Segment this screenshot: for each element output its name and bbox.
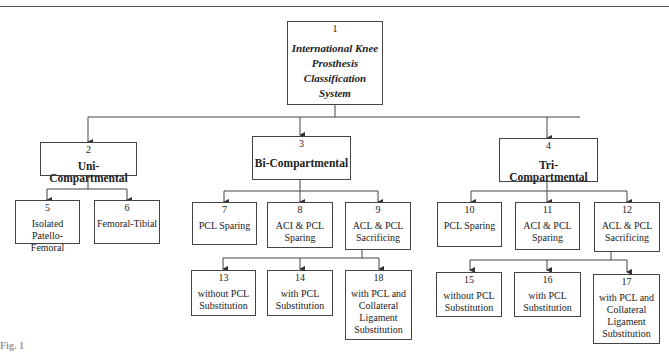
- node-number: 6: [95, 202, 159, 214]
- node-number: 5: [16, 202, 79, 214]
- node-number: 14: [268, 272, 332, 284]
- node-label: Bi-Compartmental: [253, 157, 350, 169]
- node-label: ACL & PCL Sacrificing: [595, 220, 659, 244]
- node-number: 17: [594, 276, 659, 288]
- node-label: with PCL and Collateral Ligament Substit…: [594, 292, 659, 340]
- node-17: 17 with PCL and Collateral Ligament Subs…: [593, 274, 660, 344]
- node-number: 15: [437, 274, 501, 286]
- node-11: 11 ACI & PCL Sparing: [515, 202, 580, 250]
- node-number: 8: [268, 204, 332, 216]
- node-label: Isolated Patello-Femoral: [16, 218, 79, 254]
- node-number: 18: [346, 272, 411, 284]
- node-label: PCL Sparing: [438, 220, 501, 232]
- node-number: 12: [595, 204, 659, 216]
- node-number: 4: [500, 140, 597, 152]
- node-label: ACL & PCL Sacrificing: [346, 220, 410, 244]
- node-label: Femoral-Tibial: [95, 218, 159, 230]
- root-node: 1 International Knee Prosthesis Classifi…: [287, 21, 383, 105]
- node-label: PCL Sparing: [193, 220, 256, 232]
- figure-caption: Fig. 1: [0, 340, 24, 351]
- node-label: with PCL and Collateral Ligament Substit…: [346, 288, 411, 336]
- node-13: 13 without PCL Substitution: [191, 270, 256, 316]
- node-16: 16 with PCL Substitution: [514, 272, 581, 317]
- node-number: 11: [516, 204, 579, 216]
- node-label: with PCL Substitution: [268, 288, 332, 312]
- node-9: 9 ACL & PCL Sacrificing: [345, 202, 411, 250]
- node-8: 8 ACI & PCL Sparing: [267, 202, 333, 248]
- node-label: ACI & PCL Sparing: [268, 220, 332, 244]
- node-label: without PCL Substitution: [437, 290, 501, 314]
- node-number: 9: [346, 204, 410, 216]
- node-5: 5 Isolated Patello-Femoral: [15, 200, 80, 244]
- node-label: ACI & PCL Sparing: [516, 220, 579, 244]
- node-label: Tri-Compartmental: [500, 159, 597, 183]
- node-12: 12 ACL & PCL Sacrificing: [594, 202, 660, 252]
- node-14: 14 with PCL Substitution: [267, 270, 333, 316]
- node-10: 10 PCL Sparing: [437, 202, 502, 247]
- node-bi-compartmental: 3 Bi-Compartmental: [252, 136, 351, 180]
- node-number: 1: [288, 23, 382, 35]
- node-6: 6 Femoral-Tibial: [94, 200, 160, 244]
- node-18: 18 with PCL and Collateral Ligament Subs…: [345, 270, 412, 340]
- node-label: International Knee Prosthesis Classifica…: [288, 41, 382, 101]
- node-label: with PCL Substitution: [515, 290, 580, 314]
- node-number: 7: [193, 204, 256, 216]
- node-number: 13: [192, 272, 255, 284]
- node-7: 7 PCL Sparing: [192, 202, 257, 245]
- node-15: 15 without PCL Substitution: [436, 272, 502, 317]
- node-number: 10: [438, 204, 501, 216]
- node-tri-compartmental: 4 Tri-Compartmental: [499, 138, 598, 182]
- node-number: 16: [515, 274, 580, 286]
- node-uni-compartmental: 2 Uni-Compartmental: [40, 142, 137, 176]
- node-label: Uni-Compartmental: [41, 160, 136, 184]
- node-number: 2: [41, 144, 136, 156]
- node-label: without PCL Substitution: [192, 288, 255, 312]
- node-number: 3: [253, 138, 350, 150]
